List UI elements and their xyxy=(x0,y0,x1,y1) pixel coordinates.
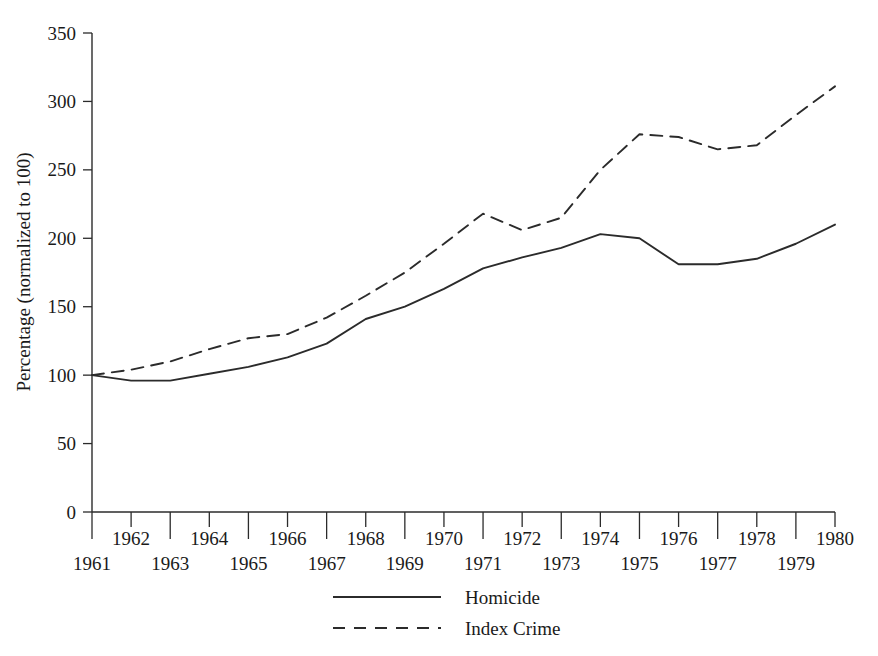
x-tick-label: 1970 xyxy=(425,528,463,549)
y-tick-group: 050100150200250300350 xyxy=(48,23,93,523)
x-tick-label: 1962 xyxy=(112,528,150,549)
x-tick-label: 1974 xyxy=(581,528,620,549)
x-tick-label: 1965 xyxy=(229,553,267,574)
x-tick-label: 1975 xyxy=(620,553,658,574)
series-line-homicide xyxy=(92,225,835,381)
y-tick-label: 250 xyxy=(48,159,77,180)
x-tick-label: 1967 xyxy=(308,553,346,574)
x-tick-label: 1978 xyxy=(738,528,776,549)
y-tick-label: 350 xyxy=(48,23,77,44)
x-tick-label: 1966 xyxy=(269,528,307,549)
x-tick-label: 1961 xyxy=(73,553,111,574)
x-tick-label: 1980 xyxy=(816,528,854,549)
x-tick-label: 1964 xyxy=(190,528,229,549)
legend-label-index-crime: Index Crime xyxy=(465,618,561,639)
x-tick-group: 1961196219631964196519661967196819691970… xyxy=(73,512,854,574)
x-tick-label: 1973 xyxy=(542,553,580,574)
y-axis-title: Percentage (normalized to 100) xyxy=(13,153,35,392)
x-tick-label: 1969 xyxy=(386,553,424,574)
x-tick-label: 1963 xyxy=(151,553,189,574)
y-tick-label: 300 xyxy=(48,91,77,112)
x-tick-label: 1972 xyxy=(503,528,541,549)
series-group xyxy=(92,86,835,380)
x-tick-label: 1971 xyxy=(464,553,502,574)
chart-legend: HomicideIndex Crime xyxy=(333,587,561,639)
y-tick-label: 50 xyxy=(57,433,76,454)
x-tick-label: 1979 xyxy=(777,553,815,574)
line-chart: 050100150200250300350 196119621963196419… xyxy=(0,0,878,656)
y-tick-label: 150 xyxy=(48,296,77,317)
y-tick-label: 100 xyxy=(48,365,77,386)
y-tick-label: 0 xyxy=(67,502,77,523)
x-tick-label: 1977 xyxy=(699,553,737,574)
caption-ghost-text xyxy=(34,641,834,654)
x-tick-label: 1976 xyxy=(660,528,698,549)
x-tick-label: 1968 xyxy=(347,528,385,549)
legend-label-homicide: Homicide xyxy=(465,587,540,608)
figure-container: 050100150200250300350 196119621963196419… xyxy=(0,0,878,656)
series-line-index-crime xyxy=(92,86,835,375)
y-tick-label: 200 xyxy=(48,228,77,249)
